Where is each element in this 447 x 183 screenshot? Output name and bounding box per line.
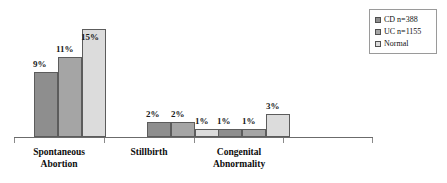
- bar-group-stillbirth: 2% 2% 1%: [147, 6, 219, 137]
- bar-wrap: 15%: [82, 6, 106, 137]
- legend-item-normal[interactable]: Normal: [375, 38, 432, 49]
- category-label-line: Abortion: [14, 158, 104, 170]
- x-axis-tick: [14, 138, 15, 143]
- legend: CD n=388 UC n=1155 Normal: [369, 9, 437, 54]
- bar-wrap: 2%: [171, 6, 195, 137]
- bar-uc-stillbirth[interactable]: [171, 122, 195, 137]
- legend-swatch-icon: [375, 17, 381, 23]
- bar-wrap: 3%: [266, 6, 290, 137]
- category-label-congenital-abnormality: Congenital Abnormality: [194, 146, 284, 170]
- bar-value-label: 15%: [81, 32, 99, 42]
- legend-swatch-icon: [375, 41, 381, 47]
- bar-group-spontaneous-abortion: 9% 11% 15%: [34, 6, 106, 137]
- bar-value-label: 2%: [146, 109, 160, 119]
- category-label-stillbirth: Stillbirth: [104, 146, 194, 158]
- category-label-line: Abnormality: [194, 158, 284, 170]
- bar-normal-spontaneous-abortion[interactable]: [82, 29, 106, 137]
- bar-cd-spontaneous-abortion[interactable]: [34, 72, 58, 137]
- bar-value-label: 1%: [242, 116, 256, 126]
- category-label-line: Spontaneous: [14, 146, 104, 158]
- x-axis-tick: [283, 138, 284, 143]
- bar-wrap: 11%: [58, 6, 82, 137]
- legend-swatch-icon: [375, 29, 381, 35]
- bar-value-label: 11%: [56, 44, 74, 54]
- legend-label: Normal: [384, 39, 408, 48]
- category-label-line: Congenital: [194, 146, 284, 158]
- bar-wrap: 1%: [242, 6, 266, 137]
- x-axis-tick: [372, 138, 373, 143]
- bar-value-label: 1%: [195, 116, 209, 126]
- bar-uc-spontaneous-abortion[interactable]: [58, 57, 82, 137]
- legend-label: UC n=1155: [384, 27, 421, 36]
- bar-uc-congenital-abnormality[interactable]: [242, 129, 266, 137]
- category-label-line: Stillbirth: [104, 146, 194, 158]
- bar-normal-congenital-abnormality[interactable]: [266, 114, 290, 137]
- bar-cd-stillbirth[interactable]: [147, 122, 171, 137]
- bar-normal-stillbirth[interactable]: [195, 129, 219, 137]
- bar-value-label: 3%: [266, 101, 280, 111]
- x-axis-tick: [194, 138, 195, 143]
- legend-item-uc[interactable]: UC n=1155: [375, 26, 432, 37]
- bar-wrap: 9%: [34, 6, 58, 137]
- bar-value-label: 1%: [217, 116, 231, 126]
- bar-value-label: 2%: [171, 109, 185, 119]
- plot-area: 9% 11% 15% 2%: [14, 6, 373, 137]
- x-axis-tick: [104, 138, 105, 143]
- grouped-bar-chart: 9% 11% 15% 2%: [0, 0, 447, 183]
- bar-group-congenital-abnormality: 1% 1% 3%: [218, 6, 290, 137]
- bar-cd-congenital-abnormality[interactable]: [218, 129, 242, 137]
- bar-wrap: 1%: [195, 6, 219, 137]
- legend-item-cd[interactable]: CD n=388: [375, 14, 432, 25]
- bar-wrap: 1%: [218, 6, 242, 137]
- legend-label: CD n=388: [384, 15, 418, 24]
- category-label-spontaneous-abortion: Spontaneous Abortion: [14, 146, 104, 170]
- bar-wrap: 2%: [147, 6, 171, 137]
- bar-value-label: 9%: [33, 59, 47, 69]
